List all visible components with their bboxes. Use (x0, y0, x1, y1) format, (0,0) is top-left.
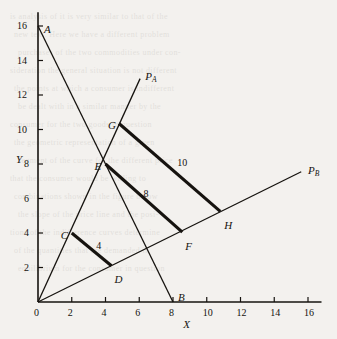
point-label-G: G (108, 120, 116, 131)
point-label-F: F (185, 241, 192, 252)
y-tick-label-10: 10 (17, 125, 27, 135)
point-label-E: E (95, 161, 102, 172)
segment-GH (119, 123, 220, 211)
point-label-C: C (61, 230, 68, 241)
y-tick-label-14: 14 (17, 56, 27, 66)
x-tick-label-12: 12 (237, 308, 247, 318)
point-label-A: A (44, 24, 51, 35)
y-axis-title: Y (16, 154, 22, 165)
graph-canvas (0, 0, 337, 339)
point-label-H: H (224, 220, 232, 231)
figure-container: is analysis of it is very similar to tha… (0, 0, 337, 339)
ray-label-P_B: PB (308, 165, 319, 178)
x-tick-label-16: 16 (304, 308, 314, 318)
y-tick-label-4: 4 (24, 228, 29, 238)
segment-CD (72, 233, 112, 266)
y-tick-label-12: 12 (17, 90, 27, 100)
x-axis-title: X (183, 319, 190, 330)
segment-value-CD: 4 (96, 241, 101, 251)
x-tick-label-14: 14 (270, 308, 280, 318)
x-tick-label-2: 2 (68, 308, 73, 318)
price-ray-P_A (38, 79, 140, 302)
x-tick-label-8: 8 (169, 308, 174, 318)
x-tick-label-10: 10 (203, 308, 213, 318)
segment-value-GH: 10 (177, 158, 187, 168)
x-tick-label-0: 0 (34, 308, 39, 318)
y-tick-label-8: 8 (24, 159, 29, 169)
point-label-D: D (114, 274, 122, 285)
y-tick-label-6: 6 (24, 194, 29, 204)
x-tick-label-6: 6 (135, 308, 140, 318)
y-tick-label-2: 2 (24, 263, 29, 273)
point-label-B: B (178, 292, 185, 303)
x-tick-label-4: 4 (102, 308, 107, 318)
y-tick-label-16: 16 (17, 21, 27, 31)
plot-lines-group (38, 26, 301, 302)
segment-value-EF: 8 (143, 189, 148, 199)
ray-label-P_A: PA (145, 71, 156, 84)
